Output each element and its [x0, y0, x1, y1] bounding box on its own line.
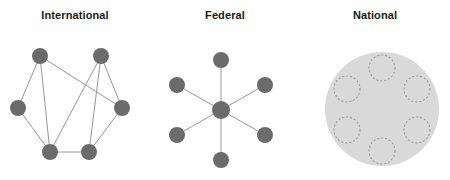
network-hub-node: [212, 101, 230, 119]
network-node: [257, 127, 273, 143]
network-node: [42, 144, 58, 160]
network-topology-figure: International Federal National: [0, 0, 450, 180]
diagram-national: [300, 0, 450, 180]
network-node: [213, 152, 229, 168]
network-node: [169, 77, 185, 93]
network-node: [169, 127, 185, 143]
network-node: [114, 100, 130, 116]
network-edge: [18, 108, 50, 152]
network-node: [93, 48, 109, 64]
network-node: [257, 77, 273, 93]
network-edge: [101, 56, 122, 108]
network-node: [81, 144, 97, 160]
network-edge: [40, 56, 50, 152]
national-region-boundary: [325, 52, 439, 166]
panel-international: International: [0, 0, 150, 180]
panel-federal: Federal: [150, 0, 300, 180]
network-edge: [89, 56, 101, 152]
network-edge: [40, 56, 122, 108]
diagram-federal: [150, 0, 300, 180]
panel-national: National: [300, 0, 450, 180]
network-node: [213, 52, 229, 68]
network-node: [10, 100, 26, 116]
network-edge: [50, 56, 101, 152]
network-node: [32, 48, 48, 64]
diagram-international: [0, 0, 150, 180]
network-edge: [18, 56, 40, 108]
